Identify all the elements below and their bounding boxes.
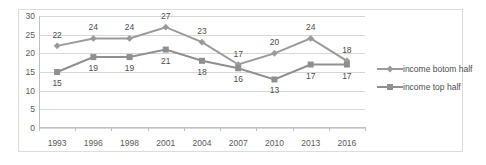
data-label: 24 [306,22,315,32]
x-axis-label: 1993 [48,138,67,148]
x-axis-tick [365,127,366,131]
data-point-marker [126,35,133,42]
data-label: 18 [197,67,206,77]
x-axis-label: 2016 [337,138,356,148]
data-point-marker [54,42,61,49]
x-axis-label: 2001 [156,138,175,148]
data-point-marker [90,54,96,60]
data-label: 21 [161,56,170,66]
y-axis-tick-label: 25 [26,30,35,40]
y-axis-tick-label: 20 [26,48,35,58]
data-label: 20 [270,37,279,47]
square-marker-icon [377,82,403,92]
x-axis-label: 2013 [301,138,320,148]
y-axis-tick-label: 5 [30,104,35,114]
data-label: 22 [52,30,61,40]
x-axis-label: 2010 [265,138,284,148]
data-point-marker [308,62,314,68]
data-point-marker [127,54,133,60]
x-axis-labels: 199319961998200120042007201020132016 [39,134,365,150]
data-point-marker [54,69,60,75]
data-point-marker [199,58,205,64]
data-label: 13 [270,85,279,95]
x-axis-label: 1996 [84,138,103,148]
data-label: 17 [342,71,351,81]
data-label: 19 [89,63,98,73]
y-axis-tick-label: 10 [26,86,35,96]
data-label: 24 [125,22,134,32]
legend-label: income top half [403,82,461,92]
data-point-marker [163,47,169,53]
data-label: 17 [233,49,242,59]
gridline [39,128,365,129]
data-point-marker [271,50,278,57]
data-label: 18 [342,45,351,55]
data-point-marker [90,35,97,42]
legend-item[interactable]: income botom half [377,60,486,78]
data-point-marker [344,62,350,68]
data-label: 27 [161,11,170,21]
chart-container: 051015202530 222424272317202418151919211… [18,9,463,152]
y-axis-tick-label: 30 [26,11,35,21]
data-label: 17 [306,71,315,81]
data-label: 15 [52,78,61,88]
x-axis-label: 2007 [229,138,248,148]
data-point-marker [235,65,241,71]
x-axis-label: 2004 [193,138,212,148]
x-axis-label: 1998 [120,138,139,148]
y-axis-tick-label: 0 [30,123,35,133]
plot-area: 051015202530 222424272317202418151919211… [39,16,365,128]
data-label: 16 [233,74,242,84]
data-label: 24 [89,22,98,32]
data-label: 23 [197,26,206,36]
data-point-marker [162,24,169,31]
diamond-marker-icon [377,64,403,74]
data-label: 19 [125,63,134,73]
chart-legend: income botom halfincome top half [377,60,486,96]
legend-label: income botom half [403,64,472,74]
legend-item[interactable]: income top half [377,78,486,96]
data-point-marker [271,76,277,82]
y-axis-tick-label: 15 [26,67,35,77]
